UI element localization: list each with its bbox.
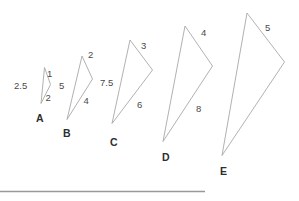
similar-triangles-figure: 2.512A524B7.536C48D5E	[0, 0, 299, 201]
side-label-a-bottom: 2	[46, 93, 51, 103]
side-label-c-left: 7.5	[100, 78, 113, 88]
side-label-b-top: 2	[88, 50, 93, 60]
vertex-label-b: B	[63, 128, 71, 139]
side-label-b-left: 5	[59, 81, 64, 91]
vertex-label-c: C	[110, 137, 118, 148]
triangle-b	[67, 56, 93, 120]
triangle-d	[163, 26, 213, 142]
side-label-a-left: 2.5	[14, 81, 27, 91]
vertex-label-a: A	[36, 113, 44, 124]
triangle-e	[222, 13, 285, 156]
side-label-c-top: 3	[141, 41, 146, 51]
triangle-c	[112, 40, 153, 124]
side-label-a-top: 1	[47, 69, 52, 79]
side-label-d-top: 4	[201, 28, 206, 38]
side-label-c-bottom: 6	[137, 100, 142, 110]
vertex-label-d: D	[162, 152, 170, 163]
side-label-e-top: 5	[265, 23, 270, 33]
side-label-b-bottom: 4	[84, 96, 89, 106]
vertex-label-e: E	[220, 166, 227, 177]
side-label-d-bottom: 8	[196, 104, 201, 114]
triangle-shape-group	[41, 13, 285, 156]
